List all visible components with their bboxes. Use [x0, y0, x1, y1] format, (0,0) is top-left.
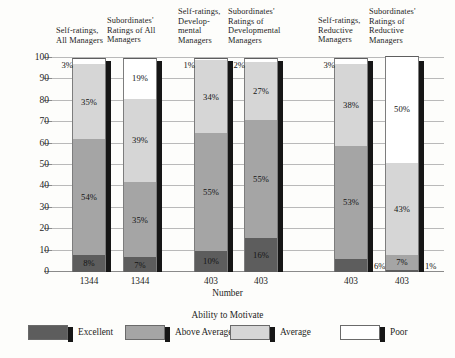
legend-swatch: [340, 325, 380, 340]
plot-area: 0102030405060708090100 8%54%35%3%7%35%39…: [52, 58, 444, 272]
legend-swatch-shadow: [270, 327, 275, 342]
column-header-line: Ratings of All: [107, 26, 181, 36]
category-number-label: 403: [325, 276, 377, 286]
segment-value-label: 38%: [334, 101, 368, 110]
column-header-row: Self-ratings,All ManagersSubordinates'Ra…: [0, 0, 455, 56]
y-axis-tick-label: 80: [40, 95, 50, 104]
category-number-label: 403: [185, 276, 237, 286]
segment-value-label: 50%: [385, 105, 419, 114]
legend-swatch-shadow: [165, 327, 170, 342]
y-axis-tick-label: 30: [40, 202, 50, 211]
segment-value-label: 2%: [211, 61, 245, 70]
bar-shadow: [368, 61, 373, 272]
column-header-line: Subordinates': [107, 16, 181, 26]
bar-shadow: [228, 61, 233, 272]
column-header: Subordinates'Ratings of AllManagers: [107, 16, 181, 45]
segment-value-label: 53%: [334, 198, 368, 207]
bar-column[interactable]: 7%35%39%19%: [123, 58, 157, 272]
legend-title: Ability to Motivate: [0, 310, 455, 320]
bar-segment-poor[interactable]: [334, 58, 368, 64]
legend-swatch: [28, 325, 68, 340]
column-header-line: Managers: [107, 35, 181, 45]
bar-shadow: [157, 61, 162, 272]
category-number-label: 403: [376, 276, 428, 286]
segment-value-label: 35%: [72, 98, 106, 107]
legend-swatch: [125, 325, 165, 340]
column-header: Subordinates'Ratings ofDevelopmentalMana…: [228, 7, 302, 45]
segment-value-label: 34%: [194, 93, 228, 102]
bar-segment-excellent[interactable]: [385, 270, 419, 272]
segment-value-label: 35%: [123, 216, 157, 225]
y-axis-tick-label: 90: [40, 74, 50, 83]
segment-value-label: 54%: [72, 193, 106, 202]
legend: ExcellentAbove AverageAveragePoor: [0, 324, 455, 346]
category-number-label: 1344: [63, 276, 115, 286]
y-axis-tick-label: 60: [40, 138, 50, 147]
y-axis-tick-label: 0: [44, 267, 49, 276]
segment-value-label: 43%: [385, 205, 419, 214]
column-header-line: Developmental: [228, 26, 302, 36]
legend-label: Poor: [390, 327, 408, 338]
y-axis-tick-label: 10: [40, 245, 50, 254]
bar-segment-excellent[interactable]: [334, 259, 368, 272]
bar-shadow: [106, 61, 111, 272]
segment-value-label: 10%: [194, 257, 228, 266]
segment-value-label: 39%: [123, 136, 157, 145]
segment-value-label: 55%: [194, 188, 228, 197]
bar-shadow: [419, 61, 424, 272]
column-header-line: Reductive: [369, 26, 443, 36]
segment-value-label: 1%: [425, 262, 451, 271]
legend-label: Average: [280, 327, 311, 338]
segment-value-label: 1%: [161, 61, 195, 70]
bar-segment-poor[interactable]: [244, 58, 278, 62]
segment-value-label: 27%: [244, 87, 278, 96]
y-axis-tick-label: 50: [40, 160, 50, 169]
bar-column[interactable]: 6%53%38%3%: [334, 58, 368, 272]
bar-segment-poor[interactable]: [194, 58, 228, 60]
y-axis-tick-label: 40: [40, 181, 50, 190]
bar-column[interactable]: 1%7%43%50%: [385, 58, 419, 272]
segment-value-label: 7%: [123, 261, 157, 270]
x-axis-title: Number: [0, 288, 455, 298]
segment-value-label: 55%: [244, 175, 278, 184]
segment-value-label: 19%: [123, 74, 157, 83]
segment-value-label: 16%: [244, 251, 278, 260]
segment-value-label: 8%: [72, 259, 106, 268]
bar-column[interactable]: 10%55%34%1%: [194, 58, 228, 272]
legend-swatch: [230, 325, 270, 340]
column-header-line: Managers: [228, 36, 302, 46]
column-header-line: Managers: [369, 36, 443, 46]
category-number-label: 403: [235, 276, 287, 286]
column-header-line: Ratings of: [228, 17, 302, 27]
y-axis-tick-label: 20: [40, 224, 50, 233]
bar-column[interactable]: 8%54%35%3%: [72, 58, 106, 272]
segment-value-label: 3%: [39, 61, 73, 70]
category-number-label: 1344: [114, 276, 166, 286]
segment-value-label: 7%: [385, 258, 419, 267]
column-header: Subordinates'Ratings ofReductiveManagers: [369, 7, 443, 45]
bar-segment-poor[interactable]: [72, 58, 106, 64]
stacked-bar-chart: Self-ratings,All ManagersSubordinates'Ra…: [0, 0, 455, 358]
segment-value-label: 3%: [301, 61, 335, 70]
y-axis-tick-label: 70: [40, 117, 50, 126]
column-header-line: Subordinates': [369, 7, 443, 17]
bar-shadow: [278, 61, 283, 272]
legend-swatch-shadow: [68, 327, 73, 342]
legend-label: Excellent: [78, 327, 113, 338]
legend-swatch-shadow: [380, 327, 385, 342]
column-header-line: Subordinates': [228, 7, 302, 17]
column-header-line: Ratings of: [369, 17, 443, 27]
legend-label: Above Average: [175, 327, 232, 338]
bar-column[interactable]: 16%55%27%2%: [244, 58, 278, 272]
